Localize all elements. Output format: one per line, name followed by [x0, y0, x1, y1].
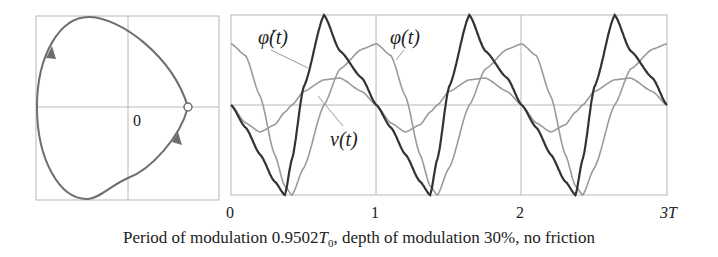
figure-canvas: 0 φ̇(t) φ(t) ν(t) 0 1 2 3T: [0, 0, 718, 257]
phi-label: φ(t): [390, 26, 420, 49]
phase-portrait-panel: 0: [36, 16, 219, 200]
time-series-panel: φ̇(t) φ(t) ν(t) 0 1 2 3T: [226, 15, 678, 221]
origin-label: 0: [133, 112, 141, 129]
caption-T: T: [318, 228, 327, 247]
tick-2: 2: [516, 204, 524, 221]
phase-orbit: [37, 17, 188, 199]
caption-prefix: Period of modulation: [123, 228, 272, 247]
start-point-marker: [184, 103, 192, 111]
tick-0: 0: [226, 204, 234, 221]
tick-3T: 3T: [659, 204, 678, 221]
tick-1: 1: [371, 204, 379, 221]
nu-label: ν(t): [330, 128, 358, 151]
phi-dot-label: φ̇(t): [258, 26, 288, 49]
figure-caption: Period of modulation 0.9502T0, depth of …: [0, 228, 718, 249]
phi-leader: [396, 50, 404, 60]
caption-value: 0.9502: [272, 228, 319, 247]
phi-dot-leader: [271, 50, 308, 68]
caption-suffix: , depth of modulation 30%, no friction: [333, 228, 595, 247]
